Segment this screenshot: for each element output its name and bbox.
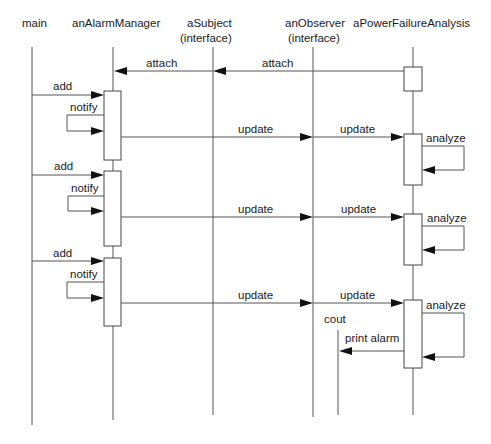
message-label-add-2: add bbox=[54, 160, 73, 172]
message-label-update-2b: update bbox=[341, 203, 376, 215]
lifeline-label-main: main bbox=[22, 17, 47, 29]
arrowhead bbox=[114, 67, 127, 75]
message-label-attach-1: attach bbox=[262, 57, 293, 69]
arrowhead bbox=[213, 67, 226, 75]
arrowhead bbox=[91, 127, 104, 135]
message-label-notify-2: notify bbox=[71, 182, 99, 194]
arrowhead bbox=[391, 213, 404, 221]
message-label-analyze-1: analyze bbox=[426, 132, 466, 144]
message-label-notify-3: notify bbox=[70, 268, 98, 280]
arrowhead bbox=[91, 171, 104, 179]
sequence-diagram: main anAlarmManager aSubject (interface)… bbox=[0, 0, 491, 444]
message-label-analyze-2: analyze bbox=[427, 212, 467, 224]
message-notify-2 bbox=[68, 196, 104, 211]
message-label-update-1a: update bbox=[238, 123, 273, 135]
arrowhead bbox=[91, 294, 104, 302]
message-notify-3 bbox=[67, 282, 104, 298]
arrowhead bbox=[422, 166, 435, 174]
activation-apfa-2 bbox=[404, 214, 422, 265]
message-label-update-2a: update bbox=[238, 203, 273, 215]
activation-apfa-3 bbox=[404, 300, 422, 368]
arrowhead bbox=[339, 347, 352, 355]
message-analyze-1 bbox=[422, 146, 464, 170]
lifeline-sublabel-anobserver: (interface) bbox=[288, 32, 340, 44]
message-label-update-1b: update bbox=[340, 123, 375, 135]
arrowhead bbox=[422, 353, 435, 361]
activation-am-3 bbox=[104, 258, 121, 326]
lifeline-label-cout: cout bbox=[324, 313, 347, 325]
message-label-print-alarm: print alarm bbox=[345, 332, 399, 344]
activation-am-1 bbox=[104, 91, 121, 160]
activation-apfa-0 bbox=[404, 67, 422, 91]
arrowhead bbox=[300, 213, 313, 221]
arrowhead bbox=[422, 246, 435, 254]
message-label-update-3b: update bbox=[340, 289, 375, 301]
message-label-update-3a: update bbox=[238, 289, 273, 301]
lifeline-label-analarmmanager: anAlarmManager bbox=[72, 17, 160, 29]
message-analyze-2 bbox=[422, 226, 464, 250]
arrowhead bbox=[91, 91, 104, 99]
lifeline-sublabel-asubject: (interface) bbox=[180, 32, 232, 44]
message-label-notify-1: notify bbox=[70, 101, 98, 113]
message-analyze-3 bbox=[422, 313, 464, 357]
message-label-analyze-3: analyze bbox=[426, 299, 466, 311]
message-label-add-3: add bbox=[53, 247, 72, 259]
activation-am-2 bbox=[104, 171, 121, 246]
arrowhead bbox=[91, 207, 104, 215]
arrowhead bbox=[300, 299, 313, 307]
arrowhead bbox=[300, 133, 313, 141]
message-notify-1 bbox=[67, 115, 104, 131]
message-label-attach-2: attach bbox=[146, 57, 177, 69]
lifeline-label-anobserver: anObserver bbox=[285, 17, 345, 29]
message-label-add-1: add bbox=[53, 80, 72, 92]
arrowhead bbox=[391, 299, 404, 307]
lifeline-label-asubject: aSubject bbox=[187, 17, 233, 29]
arrowhead bbox=[91, 257, 104, 265]
activation-apfa-1 bbox=[404, 134, 422, 185]
arrowhead bbox=[391, 133, 404, 141]
lifeline-label-apowerfailureanalysis: aPowerFailureAnalysis bbox=[353, 17, 470, 29]
